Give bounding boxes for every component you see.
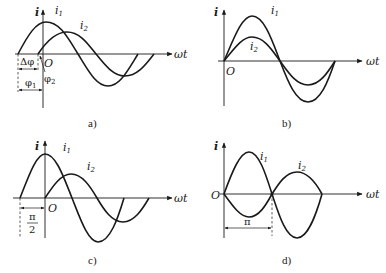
label-i1: i1 bbox=[63, 141, 71, 155]
panel-a: i i1 i2 ωt O Δφ φ1 φ2 a) bbox=[15, 4, 188, 130]
origin-label: O bbox=[226, 65, 235, 78]
x-axis-label: ωt bbox=[366, 188, 380, 201]
label-i2: i2 bbox=[87, 160, 96, 174]
label-i1: i1 bbox=[55, 4, 63, 18]
panel-c: i i1 i2 ωt O π 2 c) bbox=[13, 140, 188, 267]
origin-label: O bbox=[44, 57, 53, 70]
phi2-label: φ2 bbox=[44, 73, 55, 86]
label-i1: i1 bbox=[271, 4, 279, 18]
y-axis-label: i bbox=[214, 140, 218, 153]
pi-label: π bbox=[244, 216, 251, 227]
caption-a: a) bbox=[88, 117, 97, 130]
label-i2: i2 bbox=[80, 19, 89, 33]
panel-b: i i1 i2 ωt O b) bbox=[214, 4, 380, 130]
origin-label: O bbox=[211, 189, 220, 202]
y-axis-label: i bbox=[35, 140, 39, 153]
x-axis-label: ωt bbox=[174, 192, 188, 205]
label-i2: i2 bbox=[298, 159, 307, 173]
y-axis-label: i bbox=[214, 6, 218, 19]
caption-d: d) bbox=[282, 254, 292, 267]
phase-relationship-diagram: i i1 i2 ωt O Δφ φ1 φ2 a) i i1 i2 ωt O b) bbox=[0, 0, 386, 273]
caption-c: c) bbox=[88, 254, 97, 267]
caption-b: b) bbox=[282, 117, 292, 130]
x-axis-label: ωt bbox=[366, 55, 380, 68]
x-axis-label: ωt bbox=[174, 48, 188, 61]
label-i1: i1 bbox=[260, 150, 268, 164]
delta-phi-label: Δφ bbox=[20, 56, 34, 67]
pi-over-2-denominator: 2 bbox=[29, 224, 35, 235]
panel-d: i i1 i2 ωt O π d) bbox=[211, 140, 380, 267]
origin-label: O bbox=[48, 202, 57, 215]
y-axis-label: i bbox=[35, 6, 39, 19]
phi1-label: φ1 bbox=[25, 77, 36, 90]
pi-over-2-numerator: π bbox=[29, 211, 36, 222]
label-i2: i2 bbox=[250, 40, 259, 54]
